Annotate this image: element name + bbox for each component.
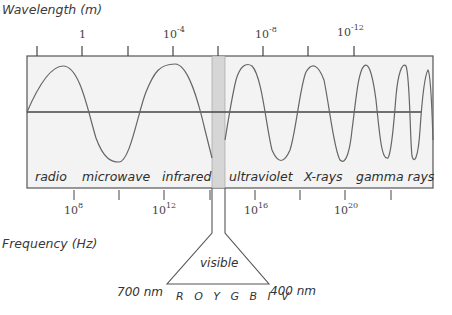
visible-long-end-label: 700 nm xyxy=(117,285,163,299)
em-spectrum-diagram: Wavelength (m) 1 10-4 10-8 10-12 radio m… xyxy=(0,0,452,315)
visible-label: visible xyxy=(200,256,238,270)
visible-colors-label: R O Y G B I V xyxy=(176,290,292,303)
